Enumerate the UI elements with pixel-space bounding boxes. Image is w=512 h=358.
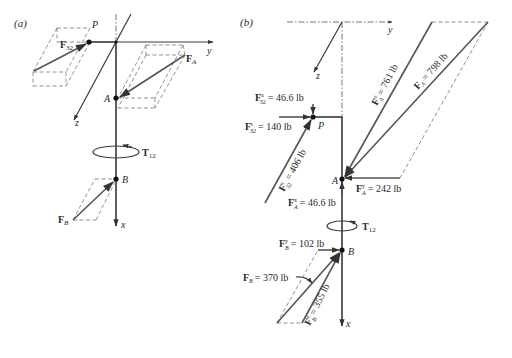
point-b-label: B <box>122 174 128 185</box>
x-axis-label: x <box>120 219 126 230</box>
fa-label: FA= 798 lb <box>411 50 450 92</box>
point-p-label: P <box>91 19 98 30</box>
point-a-label: A <box>331 175 339 186</box>
panel-a-label: (a) <box>14 17 27 30</box>
torque-label: T12 <box>142 147 156 160</box>
fax-label: FxA= 46.6 lb <box>288 197 336 210</box>
z-axis <box>74 14 131 120</box>
point-b-label: B <box>348 246 354 257</box>
fa-vector <box>345 22 488 177</box>
x-axis-label: x <box>345 318 351 329</box>
point-b <box>113 176 118 181</box>
f32t-vector <box>265 120 311 203</box>
point-p <box>310 114 315 119</box>
f32r-label: Fr32= 140 lb <box>245 121 292 134</box>
free-body-diagram: (a) z y x F32 P <box>0 0 512 358</box>
fb-vector <box>73 182 113 220</box>
faz-vector <box>345 22 432 176</box>
f32-label: F32 <box>60 39 74 52</box>
fby-label: FyB= 102 lb <box>279 238 324 251</box>
point-a <box>339 176 344 181</box>
y-axis-label: y <box>206 45 212 56</box>
z-axis <box>314 22 342 72</box>
point-b <box>339 247 344 252</box>
fb-label: FB <box>58 214 69 227</box>
shaft-corner <box>114 40 117 43</box>
fb-leader <box>296 277 312 283</box>
y-axis-label: y <box>387 24 393 35</box>
fa-dashed-side <box>400 22 488 178</box>
fay-label: FyA= 242 lb <box>356 183 401 196</box>
point-a-label: A <box>103 93 111 104</box>
point-a <box>113 95 118 100</box>
fa-label: FA <box>186 53 197 66</box>
z-axis-label: z <box>315 70 320 81</box>
point-p-label: P <box>317 120 324 131</box>
panel-b-label: (b) <box>240 16 253 29</box>
f32t-label: Ft32= 406 lb <box>276 147 310 194</box>
point-p <box>86 39 91 44</box>
torque-label: T12 <box>362 221 376 234</box>
fb-label: FB= 370 lb <box>243 272 288 284</box>
f32a-label: Fa32= 46.6 lb <box>255 92 304 105</box>
panel-b: (b) y z x Fa32= 46.6 lb Fr32= 140 lb Ft3… <box>240 16 488 329</box>
z-axis-label: z <box>74 117 79 128</box>
panel-a: (a) z y x F32 P <box>14 14 213 230</box>
